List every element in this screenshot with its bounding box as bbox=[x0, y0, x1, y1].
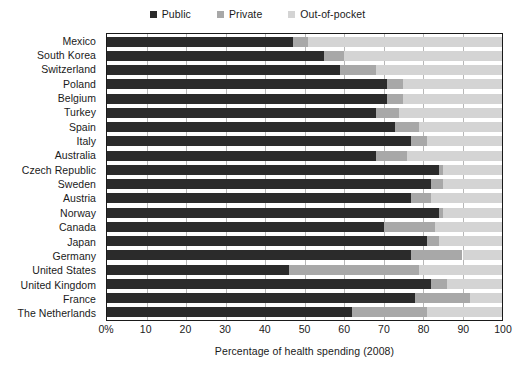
bar-segment-public bbox=[107, 136, 411, 146]
x-axis-title: Percentage of health spending (2008) bbox=[106, 345, 503, 357]
category-label: Spain bbox=[0, 122, 101, 132]
bar-row bbox=[107, 79, 502, 89]
bar-segment-private bbox=[411, 136, 427, 146]
bar-row bbox=[107, 165, 502, 175]
bar-segment-private bbox=[352, 307, 427, 317]
bar-row bbox=[107, 179, 502, 189]
x-tick-label: 10 bbox=[140, 323, 152, 335]
bar-segment-public bbox=[107, 236, 427, 246]
category-label: United States bbox=[0, 265, 101, 275]
bar-segment-public bbox=[107, 151, 376, 161]
bar-segment-out-of-pocket bbox=[439, 236, 502, 246]
bar-row bbox=[107, 151, 502, 161]
legend-item-public: Public bbox=[150, 8, 191, 20]
category-label: The Netherlands bbox=[0, 308, 101, 318]
chart-legend: Public Private Out-of-pocket bbox=[0, 8, 515, 20]
bar-segment-public bbox=[107, 94, 387, 104]
bar-segment-public bbox=[107, 179, 431, 189]
stacked-bar-chart: Public Private Out-of-pocket MexicoSouth… bbox=[0, 0, 515, 378]
bar-segment-out-of-pocket bbox=[443, 208, 502, 218]
bar-segment-out-of-pocket bbox=[447, 279, 502, 289]
category-label: Australia bbox=[0, 150, 101, 160]
bar-segment-public bbox=[107, 165, 439, 175]
bar-segment-out-of-pocket bbox=[419, 265, 502, 275]
bar-segment-out-of-pocket bbox=[308, 37, 502, 47]
square-swatch-icon bbox=[217, 11, 224, 18]
x-tick-label: 20 bbox=[180, 323, 192, 335]
bar-segment-out-of-pocket bbox=[376, 65, 502, 75]
x-tick-label: 50 bbox=[299, 323, 311, 335]
bar-segment-private bbox=[431, 279, 447, 289]
bar-row bbox=[107, 136, 502, 146]
bar-segment-private bbox=[289, 265, 419, 275]
bar-segment-private bbox=[376, 151, 408, 161]
bar-segment-out-of-pocket bbox=[419, 122, 502, 132]
bar-row bbox=[107, 307, 502, 317]
category-label: Poland bbox=[0, 79, 101, 89]
x-tick-label: 40 bbox=[259, 323, 271, 335]
x-tick-label: 70 bbox=[378, 323, 390, 335]
bar-row bbox=[107, 293, 502, 303]
bar-segment-public bbox=[107, 122, 395, 132]
bar-segment-public bbox=[107, 51, 324, 61]
bar-segment-out-of-pocket bbox=[463, 250, 503, 260]
category-label: Austria bbox=[0, 193, 101, 203]
square-swatch-icon bbox=[150, 11, 157, 18]
bar-segment-private bbox=[293, 37, 309, 47]
bar-segment-public bbox=[107, 193, 411, 203]
category-label: Belgium bbox=[0, 93, 101, 103]
legend-item-private: Private bbox=[217, 8, 262, 20]
bar-row bbox=[107, 279, 502, 289]
bar-segment-out-of-pocket bbox=[403, 94, 502, 104]
bar-segment-public bbox=[107, 279, 431, 289]
bar-row bbox=[107, 222, 502, 232]
category-label: Czech Republic bbox=[0, 165, 101, 175]
plot-area bbox=[106, 33, 503, 321]
category-label: Italy bbox=[0, 136, 101, 146]
bar-row bbox=[107, 250, 502, 260]
bar-segment-out-of-pocket bbox=[435, 222, 502, 232]
bar-segment-out-of-pocket bbox=[344, 51, 502, 61]
bar-segment-private bbox=[415, 293, 470, 303]
category-label: Norway bbox=[0, 208, 101, 218]
x-tick-label: 100 bbox=[494, 323, 512, 335]
bar-segment-out-of-pocket bbox=[470, 293, 502, 303]
category-label: Sweden bbox=[0, 179, 101, 189]
category-label: France bbox=[0, 294, 101, 304]
x-tick-label: 60 bbox=[338, 323, 350, 335]
x-tick-label: 30 bbox=[219, 323, 231, 335]
category-label: Mexico bbox=[0, 36, 101, 46]
bar-segment-out-of-pocket bbox=[427, 307, 502, 317]
bar-segment-private bbox=[387, 94, 403, 104]
bar-segment-private bbox=[395, 122, 419, 132]
bar-row bbox=[107, 236, 502, 246]
bar-row bbox=[107, 122, 502, 132]
bar-series-container bbox=[107, 34, 502, 320]
bar-row bbox=[107, 193, 502, 203]
bar-row bbox=[107, 51, 502, 61]
bar-segment-private bbox=[411, 250, 462, 260]
bar-row bbox=[107, 265, 502, 275]
bar-segment-out-of-pocket bbox=[443, 179, 502, 189]
bar-segment-out-of-pocket bbox=[431, 193, 502, 203]
category-label: Turkey bbox=[0, 107, 101, 117]
bar-segment-public bbox=[107, 108, 376, 118]
bar-segment-public bbox=[107, 307, 352, 317]
bar-segment-out-of-pocket bbox=[399, 108, 502, 118]
bar-segment-public bbox=[107, 208, 439, 218]
bar-segment-public bbox=[107, 65, 340, 75]
x-tick-label: 0% bbox=[98, 323, 113, 335]
bar-row bbox=[107, 94, 502, 104]
category-label: South Korea bbox=[0, 50, 101, 60]
category-label: United Kingdom bbox=[0, 280, 101, 290]
bar-segment-out-of-pocket bbox=[427, 136, 502, 146]
bar-segment-out-of-pocket bbox=[443, 165, 502, 175]
bar-segment-out-of-pocket bbox=[403, 79, 502, 89]
bar-segment-public bbox=[107, 293, 415, 303]
bar-segment-public bbox=[107, 79, 387, 89]
x-tick-label: 80 bbox=[418, 323, 430, 335]
category-label: Japan bbox=[0, 237, 101, 247]
legend-label-public: Public bbox=[162, 8, 191, 20]
bar-row bbox=[107, 65, 502, 75]
bar-segment-public bbox=[107, 250, 411, 260]
